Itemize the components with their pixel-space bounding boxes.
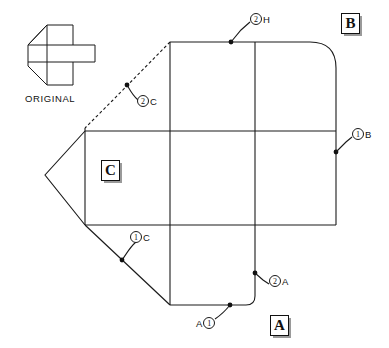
- callout-a1-letter: A: [196, 318, 202, 329]
- callout-2h-letter: H: [263, 14, 270, 25]
- callout-1b: 1 B: [352, 128, 371, 140]
- edge-left-apex: [45, 131, 85, 225]
- face-label-a: A: [270, 315, 289, 336]
- callout-2c: 2 C: [137, 95, 157, 107]
- callout-2h: 2 H: [250, 13, 270, 25]
- leader-1b: [336, 137, 352, 152]
- callout-a1: A 1: [196, 317, 215, 329]
- callout-1b-number: 1: [352, 128, 364, 140]
- callout-a1-number: 1: [203, 317, 215, 329]
- callout-2a-number: 2: [269, 275, 281, 287]
- leader-1c: [122, 242, 136, 260]
- leader-2a: [255, 273, 269, 284]
- callout-2c-letter: C: [150, 96, 157, 107]
- callout-2a-letter: A: [282, 276, 288, 287]
- leader-a1: [215, 305, 230, 319]
- diagram-canvas: ORIGINAL: [0, 0, 389, 348]
- edge-top-with-rounded-corner: [170, 42, 336, 131]
- callout-1c: 1 C: [130, 231, 150, 243]
- callout-1c-number: 1: [130, 231, 142, 243]
- callout-1b-letter: B: [365, 129, 371, 140]
- callout-2a: 2 A: [269, 275, 288, 287]
- callout-1c-letter: C: [143, 232, 150, 243]
- callout-2h-number: 2: [250, 13, 262, 25]
- face-label-b: B: [341, 13, 360, 34]
- edge-lower-left-diagonal: [85, 225, 170, 305]
- face-label-c: C: [101, 160, 120, 181]
- callout-2c-number: 2: [137, 95, 149, 107]
- edge-bottom-flap-bottom-and-right: [170, 225, 255, 305]
- development-drawing-svg: [0, 0, 389, 348]
- leader-2h: [231, 22, 250, 42]
